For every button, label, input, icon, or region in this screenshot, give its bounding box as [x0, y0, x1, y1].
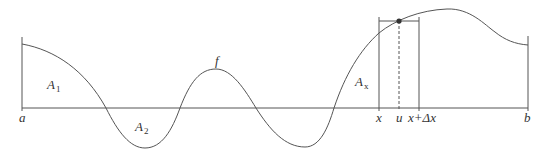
- function-curve-f: [22, 9, 528, 148]
- label-Ax: Ax: [354, 74, 369, 91]
- label-a: a: [19, 110, 26, 125]
- label-A2: A2: [134, 119, 148, 136]
- point-f-of-u: [396, 18, 401, 23]
- label-f: f: [215, 53, 221, 68]
- label-x: x: [375, 110, 382, 125]
- label-A1: A1: [46, 77, 60, 94]
- area-diagram: A1 A2 f Ax a x u x+Δx b: [0, 0, 546, 158]
- label-x-plus-dx: x+Δx: [407, 110, 436, 125]
- label-b: b: [524, 110, 531, 125]
- label-u: u: [396, 110, 403, 125]
